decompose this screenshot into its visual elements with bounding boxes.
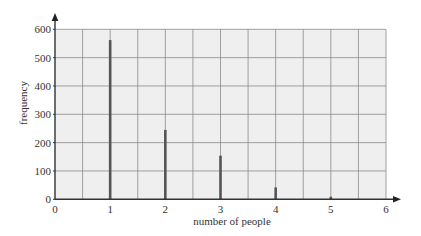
bar-2 [164,130,167,199]
y-tick-label: 200 [35,137,52,149]
x-tick-label: 5 [328,203,334,215]
y-tick-label: 300 [35,108,52,120]
x-tick-label: 6 [383,203,389,215]
bar-chart: 0100200300400500600 0123456 number of pe… [0,0,421,236]
y-axis-arrow-icon [52,13,59,21]
y-tick-label: 0 [46,193,52,205]
x-tick-label: 2 [163,203,169,215]
x-tick-label: 4 [273,203,279,215]
x-axis-title: number of people [193,215,271,227]
y-tick-label: 500 [35,52,52,64]
bar-3 [219,156,222,200]
y-tick-label: 600 [35,23,52,35]
x-tick-label: 3 [218,203,224,215]
bar-4 [274,187,277,199]
x-tick-label: 0 [52,203,58,215]
x-tick-label: 1 [107,203,113,215]
y-tick-label: 400 [35,80,52,92]
x-tick-labels: 0123456 [52,203,389,215]
y-tick-label: 100 [35,165,52,177]
y-axis-title: frequency [17,81,29,125]
bar-1 [109,40,112,199]
y-tick-labels: 0100200300400500600 [35,23,56,205]
x-axis-arrow-icon [393,196,401,203]
